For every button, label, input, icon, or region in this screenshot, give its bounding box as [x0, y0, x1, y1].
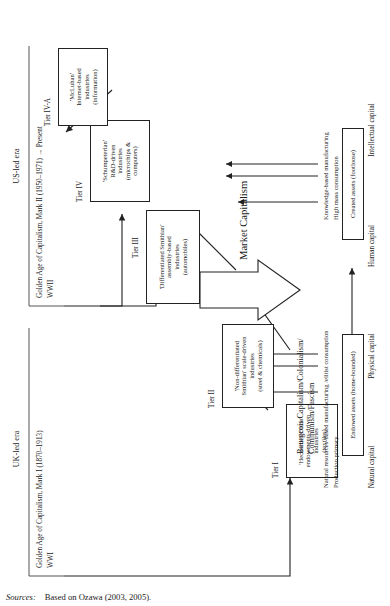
tier-label-tier1: Tier I	[272, 432, 280, 478]
tier2-line-2: Smithian' scale-driven	[240, 337, 248, 396]
era-title-uk: UK-led era	[12, 384, 21, 514]
tier4-line-5: computers)	[131, 140, 139, 182]
sources-label: Sources:	[6, 592, 45, 602]
capital-label-natural: Natural capital	[368, 432, 376, 502]
sources-text: Based on Ozawa (2003, 2005).	[45, 592, 151, 602]
hollow-block-arrow	[200, 260, 300, 320]
tier-box-tier4[interactable]: 'Schumpeterian' R&D-driven industries (m…	[90, 120, 150, 202]
mode-early-line2: Production primary	[332, 238, 339, 488]
tier-box-tier4a[interactable]: 'McLuhan' Internet-based industries (inf…	[58, 48, 108, 126]
regime-bourgeois-line1: Bourgeois Capitalism/Colonialism/	[296, 274, 305, 454]
tier4a-line-1: 'McLuhan'	[68, 68, 76, 106]
tier3-line-4: (automobiles)	[181, 225, 189, 290]
capital-label-intellectual: Intellectual capital	[368, 86, 376, 174]
tier3-line-2: assembly-based	[165, 225, 173, 290]
asset-label-created: Created assets (footloose)	[349, 150, 357, 218]
era-war-us: WWII	[47, 238, 55, 298]
era-title-us: US-led era	[12, 106, 21, 226]
tier2-line-3: industries	[248, 337, 256, 396]
tier4a-line-3: industries	[83, 68, 91, 106]
era-war-uk: WWI	[47, 508, 55, 568]
mode-late-line2: High mass consumption	[332, 30, 339, 220]
tier4a-line-2: Internet-based	[75, 68, 83, 106]
tier-box-tier3[interactable]: 'Differentiated Smithian' assembly-based…	[146, 210, 200, 304]
tier2-line-4: (steel & chemicals)	[256, 337, 264, 396]
tier3-line-3: industries	[173, 225, 181, 290]
tier4-line-4: (microchips &	[124, 140, 132, 182]
figure-rotated-wrapper: UK-led era Golden Age of Capitalism, Mar…	[0, 0, 390, 606]
asset-label-endowed: Endowed assets (home-bounded)	[349, 351, 357, 439]
tier4-line-3: industries	[116, 140, 124, 182]
asset-box-endowed[interactable]: Endowed assets (home-bounded)	[342, 334, 364, 456]
sources-caption: Sources:Based on Ozawa (2003, 2005).	[6, 592, 151, 602]
tier4a-line-4: (information)	[91, 68, 99, 106]
diagram-canvas: UK-led era Golden Age of Capitalism, Mar…	[0, 0, 390, 606]
capital-label-physical: Physical capital	[368, 320, 376, 392]
tier-label-tier3: Tier III	[132, 212, 140, 258]
tier4-line-1: 'Schumpeterian'	[101, 140, 109, 182]
tier-label-tier4: Tier IV	[76, 156, 84, 202]
tier-label-tier2: Tier II	[208, 362, 216, 408]
tier-box-tier2[interactable]: 'Non-differentiated Smithian' scale-driv…	[222, 324, 274, 408]
regime-bourgeois-line2: Communism/Fascism	[307, 274, 316, 454]
tier3-line-1: 'Differentiated Smithian'	[158, 225, 166, 290]
tier4-line-2: R&D-driven	[109, 140, 117, 182]
tier2-line-1: 'Non-differentiated	[233, 337, 241, 396]
asset-box-created[interactable]: Created assets (footloose)	[342, 128, 364, 240]
era-goldenage-uk: Golden Age of Capitalism, Mark I (1870–1…	[36, 318, 44, 568]
mode-early-line1: Natural resources-based manufacturing /e…	[322, 238, 329, 488]
era-goldenage-us: Golden Age of Capitalism, Mark II (1950–…	[36, 38, 44, 298]
mode-late-line1: Knowledge-based manufacturing	[322, 30, 329, 220]
regime-market-capitalism: Market Capitalism	[238, 130, 250, 260]
tier-label-tier4a: Tier IV-A	[44, 74, 52, 126]
capital-label-human: Human capital	[368, 212, 376, 280]
